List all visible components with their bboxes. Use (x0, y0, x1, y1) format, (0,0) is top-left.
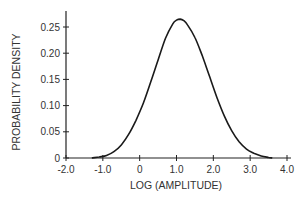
x-tick-label: -2.0 (57, 164, 75, 175)
x-tick-label: 0 (137, 164, 143, 175)
x-tick-label: 3.0 (243, 164, 257, 175)
chart: -2.0-1.001.02.03.04.000.050.100.150.200.… (0, 0, 305, 204)
x-tick-label: 2.0 (206, 164, 220, 175)
y-tick-label: 0.05 (41, 126, 61, 137)
y-tick-label: 0.15 (41, 74, 61, 85)
plot-area (92, 19, 272, 158)
x-tick-label: -1.0 (94, 164, 112, 175)
y-tick-label: 0.20 (41, 48, 61, 59)
x-tick-label: 4.0 (280, 164, 294, 175)
x-axis-title: LOG (AMPLITUDE) (130, 179, 222, 191)
y-tick-label: 0.25 (41, 22, 61, 33)
y-tick-label: 0.10 (41, 100, 61, 111)
y-axis-title: PROBABILITY DENSITY (10, 33, 22, 150)
density-curve (92, 19, 272, 158)
y-tick-label: 0 (54, 153, 60, 164)
x-tick-label: 1.0 (170, 164, 184, 175)
